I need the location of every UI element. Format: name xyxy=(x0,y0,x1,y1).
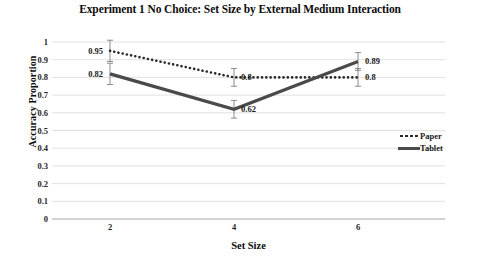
legend-label-tablet: Tablet xyxy=(420,143,443,153)
data-point-label: 0.95 xyxy=(88,46,103,56)
data-point-label: 0.82 xyxy=(88,69,103,79)
chart-container: Experiment 1 No Choice: Set Size by Exte… xyxy=(0,0,480,263)
error-bars xyxy=(107,40,361,118)
solid-line-icon xyxy=(398,143,420,153)
gridlines xyxy=(52,42,445,219)
data-point-label: 0.62 xyxy=(241,104,256,114)
data-point-label: 0.89 xyxy=(365,56,380,66)
data-point-label: 0.8 xyxy=(241,72,252,82)
legend-item-paper[interactable]: Paper xyxy=(398,130,478,141)
legend-item-tablet[interactable]: Tablet xyxy=(398,142,478,153)
dotted-line-icon xyxy=(398,131,420,141)
data-point-label: 0.8 xyxy=(365,72,376,82)
legend-label-paper: Paper xyxy=(420,131,442,141)
chart-legend: Paper Tablet xyxy=(398,130,478,154)
